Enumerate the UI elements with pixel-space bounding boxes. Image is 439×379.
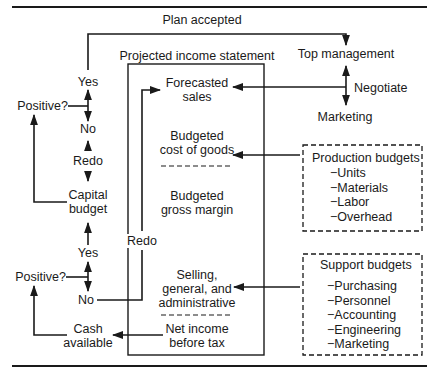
support-item: Accounting [334, 308, 396, 322]
forecasted-sales: Forecasted sales [150, 76, 244, 104]
no-bottom-label: No [75, 293, 97, 307]
budgeted-cost-of-goods: Budgeted cost of goods [150, 129, 244, 157]
support-budgets-list: −Purchasing −Personnel −Accounting −Engi… [327, 279, 401, 352]
support-budgets-title: Support budgets [320, 258, 412, 273]
production-item: Labor [337, 195, 369, 209]
production-budgets-list: −Units −Materials −Labor −Overhead [330, 166, 392, 224]
support-item: Engineering [334, 323, 401, 337]
negotiate-label: Negotiate [354, 81, 418, 95]
cash-available-node: Cash available [60, 322, 116, 350]
selling-general-administrative: Selling, general, and administrative [150, 268, 244, 310]
positive-bottom-decision: Positive? [10, 270, 66, 284]
support-item: Purchasing [334, 279, 397, 293]
yes-bottom-label: Yes [70, 246, 106, 260]
net-income-before-tax: Net income before tax [150, 322, 244, 350]
positive-top-decision: Positive? [10, 99, 68, 113]
capital-budget-node: Capital budget [60, 188, 116, 216]
production-item: Units [337, 166, 365, 180]
budgeted-gross-margin: Budgeted gross margin [150, 189, 244, 217]
production-item: Materials [337, 181, 388, 195]
income-statement-title: Projected income statement [114, 49, 280, 63]
redo-top-label: Redo [66, 154, 110, 168]
no-top-label: No [70, 122, 106, 136]
support-item: Marketing [334, 337, 389, 351]
support-item: Personnel [334, 294, 390, 308]
top-management-node: Top management [286, 47, 406, 61]
redo-mid-label: Redo [127, 234, 157, 248]
marketing-node: Marketing [310, 110, 380, 124]
production-item: Overhead [337, 210, 392, 224]
plan-accepted-label: Plan accepted [140, 13, 264, 27]
yes-top-label: Yes [70, 75, 106, 89]
production-budgets-title: Production budgets [312, 151, 420, 166]
